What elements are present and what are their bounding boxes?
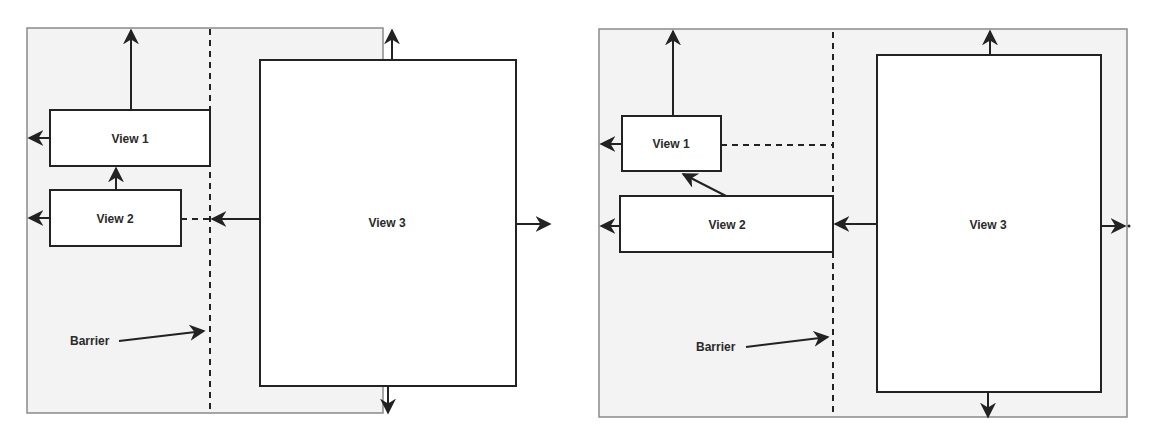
right-view-2[interactable]: View 2 <box>620 196 833 252</box>
right-diagram: View 1 View 2 View 3 Barrier <box>599 29 1131 417</box>
right-view-1-label: View 1 <box>652 137 689 151</box>
right-view-1[interactable]: View 1 <box>622 116 721 171</box>
endpoint-dot <box>1128 225 1131 228</box>
right-view-3-label: View 3 <box>969 218 1006 232</box>
right-view-2-label: View 2 <box>708 218 745 232</box>
left-view-1[interactable]: View 1 <box>50 110 210 166</box>
right-barrier-label: Barrier <box>696 340 736 354</box>
left-diagram: View 1 View 2 View 3 Barrier <box>27 28 550 413</box>
left-view-2-label: View 2 <box>96 212 133 226</box>
left-view-3[interactable]: View 3 <box>260 60 516 386</box>
left-barrier-label: Barrier <box>70 334 110 348</box>
left-view-2[interactable]: View 2 <box>50 190 181 246</box>
left-view-3-label: View 3 <box>368 216 405 230</box>
constraint-diagrams: View 1 View 2 View 3 Barrier <box>0 0 1154 438</box>
left-view-1-label: View 1 <box>111 132 148 146</box>
right-view-3[interactable]: View 3 <box>877 55 1101 392</box>
